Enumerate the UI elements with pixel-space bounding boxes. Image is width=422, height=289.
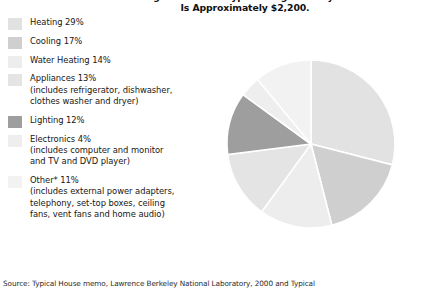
chart-legend: Heating 29%Cooling 17%Water Heating 14%A… xyxy=(0,17,215,228)
legend-label-cooling: Cooling 17% xyxy=(30,36,215,47)
legend-label-electronics: Electronics 4% xyxy=(30,134,215,145)
title-line-2: Is Approximately $2,200. xyxy=(120,2,370,13)
legend-sub-other-2: fans, vent fans and home audio) xyxy=(30,209,215,220)
legend-label-water-heating: Water Heating 14% xyxy=(30,55,215,66)
legend-swatch-heating xyxy=(8,18,22,30)
legend-swatch-water-heating xyxy=(8,56,22,68)
legend-sub-other-0: (includes external power adapters, xyxy=(30,186,215,197)
legend-item-water-heating[interactable]: Water Heating 14% xyxy=(0,55,215,66)
legend-item-electronics[interactable]: Electronics 4%(includes computer and mon… xyxy=(0,134,215,168)
legend-item-appliances[interactable]: Appliances 13%(includes refrigerator, di… xyxy=(0,73,215,107)
legend-sub-appliances-1: clothes washer and dryer) xyxy=(30,96,215,107)
legend-sub-appliances-0: (includes refrigerator, dishwasher, xyxy=(30,85,215,96)
pie-slices xyxy=(227,60,395,228)
legend-sub-electronics-0: (includes computer and monitor xyxy=(30,145,215,156)
legend-item-other[interactable]: Other* 11%(includes external power adapt… xyxy=(0,175,215,220)
chart-title: Average U.S. Home Typical Single Family … xyxy=(120,0,370,13)
legend-item-cooling[interactable]: Cooling 17% xyxy=(0,36,215,47)
legend-item-heating[interactable]: Heating 29% xyxy=(0,17,215,28)
legend-label-lighting: Lighting 12% xyxy=(30,115,215,126)
legend-sub-electronics-1: and TV and DVD player) xyxy=(30,156,215,167)
legend-swatch-appliances xyxy=(8,74,22,86)
pie-chart xyxy=(222,52,412,242)
legend-label-other: Other* 11% xyxy=(30,175,215,186)
legend-label-appliances: Appliances 13% xyxy=(30,73,215,84)
source-note: Source: Typical House memo, Lawrence Ber… xyxy=(3,279,422,288)
legend-swatch-other xyxy=(8,176,22,188)
legend-swatch-lighting xyxy=(8,116,22,128)
pie-chart-svg xyxy=(222,52,412,242)
legend-swatch-cooling xyxy=(8,37,22,49)
legend-sub-other-1: telephony, set-top boxes, ceiling xyxy=(30,198,215,209)
legend-label-heating: Heating 29% xyxy=(30,17,215,28)
legend-item-lighting[interactable]: Lighting 12% xyxy=(0,115,215,126)
legend-swatch-electronics xyxy=(8,135,22,147)
